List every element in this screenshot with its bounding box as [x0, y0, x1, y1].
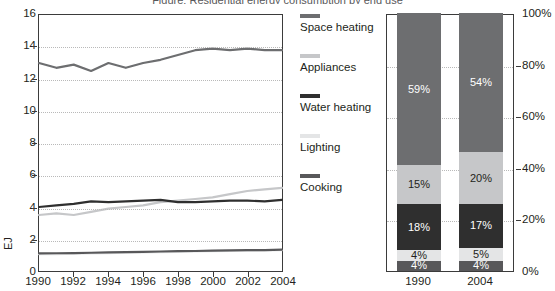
line-chart-series-svg [39, 15, 282, 271]
bar-segment-value-label: 5% [473, 249, 489, 260]
y-tick-mark [32, 240, 37, 241]
bar-segment-value-label: 59% [408, 84, 430, 95]
x-tick-label: 1994 [95, 276, 121, 288]
bar-segment-cooking[interactable]: 4% [459, 261, 503, 271]
x-tick-label: 1996 [130, 276, 156, 288]
legend-item-space-heating[interactable]: Space heating [300, 14, 384, 34]
bar-y-tick-mark [516, 220, 521, 221]
x-tick-label: 1998 [165, 276, 191, 288]
bar-y-tick-label: 40% [522, 163, 545, 175]
y-tick-mark [32, 111, 37, 112]
y-tick-mark [32, 143, 37, 144]
legend-item-label: Lighting [300, 141, 384, 154]
gridline [39, 47, 282, 48]
line-chart: 0246810121416 19901992199419961998200020… [0, 0, 296, 291]
x-tick-label: 1992 [60, 276, 86, 288]
figure-root: Figure: Residential energy consumption b… [0, 0, 555, 291]
bar-x-tick-label: 1990 [405, 276, 431, 288]
y-tick-mark [32, 46, 37, 47]
legend-item-label: Appliances [300, 61, 384, 74]
x-tick-mark [143, 272, 144, 277]
legend-swatch-icon [300, 134, 320, 138]
y-tick-label: 16 [6, 8, 36, 20]
stacked-bar-y-axis: 0%20%40%60%80%100% [516, 0, 555, 291]
bar-segment-appliances[interactable]: 15% [397, 165, 441, 204]
bar-segment-value-label: 18% [408, 222, 430, 233]
line-series-space-heating [39, 49, 282, 71]
bar-y-tick-label: 20% [522, 214, 545, 226]
y-tick-mark [32, 208, 37, 209]
gridline [39, 112, 282, 113]
line-series-water-heating [39, 200, 282, 207]
bar-segment-value-label: 4% [473, 260, 489, 271]
legend-item-lighting[interactable]: Lighting [300, 134, 384, 154]
bar-segment-value-label: 15% [408, 179, 430, 190]
legend-swatch-icon [300, 14, 320, 18]
legend-swatch-icon [300, 94, 320, 98]
bar-segment-cooking[interactable]: 4% [397, 261, 441, 271]
gridline [39, 209, 282, 210]
bar-segment-lighting[interactable]: 4% [397, 250, 441, 260]
bar-segment-value-label: 4% [411, 250, 427, 261]
bar-segment-space-heating[interactable]: 54% [459, 13, 503, 152]
bar-segment-value-label: 17% [470, 220, 492, 231]
line-chart-y-axis-title: EJ [2, 237, 14, 250]
bar-y-tick-label: 100% [522, 8, 551, 20]
legend-item-cooking[interactable]: Cooking [300, 174, 384, 194]
x-tick-label: 2000 [200, 276, 226, 288]
x-tick-mark [178, 272, 179, 277]
bar-segment-water-heating[interactable]: 18% [397, 204, 441, 250]
x-tick-mark [73, 272, 74, 277]
line-chart-x-axis: 19901992199419961998200020022004 [0, 274, 296, 291]
bar-segment-value-label: 54% [470, 77, 492, 88]
bar-segment-value-label: 20% [470, 173, 492, 184]
legend-item-appliances[interactable]: Appliances [300, 54, 384, 74]
x-tick-label: 1990 [25, 276, 51, 288]
bar-y-tick-mark [516, 117, 521, 118]
bar-segment-value-label: 4% [411, 260, 427, 271]
bar-segment-lighting[interactable]: 5% [459, 248, 503, 261]
gridline [39, 176, 282, 177]
x-tick-label: 2002 [235, 276, 261, 288]
y-tick-mark [32, 175, 37, 176]
stacked-bar-chart: 4%4%18%15%59%4%5%17%20%54% 0%20%40%60%80… [384, 0, 555, 291]
stacked-bar-plot-area: 4%4%18%15%59%4%5%17%20%54% [386, 14, 514, 272]
bar-y-tick-label: 80% [522, 60, 545, 72]
bar-segment-water-heating[interactable]: 17% [459, 204, 503, 248]
bar-y-tick-label: 60% [522, 111, 545, 123]
x-tick-mark [108, 272, 109, 277]
legend-item-water-heating[interactable]: Water heating [300, 94, 384, 114]
chart-legend: Space heatingAppliancesWater heatingLigh… [296, 0, 384, 291]
x-tick-mark [213, 272, 214, 277]
x-tick-mark [248, 272, 249, 277]
bar-y-tick-mark [516, 66, 521, 67]
x-tick-label: 2004 [270, 276, 296, 288]
bar-segment-appliances[interactable]: 20% [459, 152, 503, 204]
legend-item-label: Space heating [300, 21, 384, 34]
gridline [39, 241, 282, 242]
gridline [39, 144, 282, 145]
legend-swatch-icon [300, 54, 320, 58]
stacked-bar-x-axis: 19902004 [384, 274, 555, 291]
legend-item-label: Cooking [300, 181, 384, 194]
bar-x-tick-label: 2004 [467, 276, 493, 288]
bar-column-1990[interactable]: 4%4%18%15%59% [397, 15, 441, 271]
legend-swatch-icon [300, 174, 320, 178]
bar-segment-space-heating[interactable]: 59% [397, 13, 441, 165]
legend-item-label: Water heating [300, 101, 384, 114]
y-tick-mark [32, 79, 37, 80]
bar-y-tick-mark [516, 169, 521, 170]
line-chart-plot-area [38, 14, 283, 272]
bar-column-2004[interactable]: 4%5%17%20%54% [459, 15, 503, 271]
gridline [39, 80, 282, 81]
